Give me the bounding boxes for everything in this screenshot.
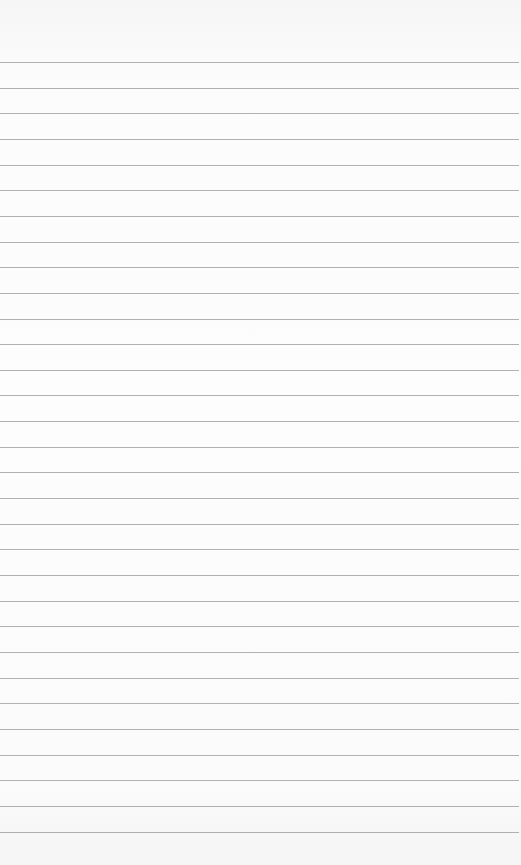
ruled-line [0, 395, 519, 396]
ruled-line [0, 755, 519, 756]
ruled-line [0, 190, 519, 191]
ruled-line [0, 165, 519, 166]
ruled-line [0, 293, 519, 294]
ruled-line [0, 498, 519, 499]
ruled-line [0, 370, 519, 371]
ruled-line [0, 806, 519, 807]
ruled-line [0, 344, 519, 345]
ruled-line [0, 703, 519, 704]
ruled-line [0, 652, 519, 653]
ruled-line [0, 524, 519, 525]
ruled-line [0, 626, 519, 627]
ruled-line [0, 267, 519, 268]
ruled-line [0, 601, 519, 602]
ruled-line [0, 832, 519, 833]
ruled-line [0, 319, 519, 320]
ruled-line [0, 472, 519, 473]
ruled-paper-sheet [0, 0, 521, 865]
ruled-line [0, 729, 519, 730]
ruled-line [0, 780, 519, 781]
ruled-line [0, 113, 519, 114]
ruled-line [0, 88, 519, 89]
ruled-line [0, 549, 519, 550]
ruled-line [0, 678, 519, 679]
ruled-line [0, 242, 519, 243]
ruled-line [0, 447, 519, 448]
ruled-line [0, 421, 519, 422]
ruled-line [0, 575, 519, 576]
ruled-line [0, 62, 519, 63]
ruled-line [0, 139, 519, 140]
ruled-line [0, 216, 519, 217]
